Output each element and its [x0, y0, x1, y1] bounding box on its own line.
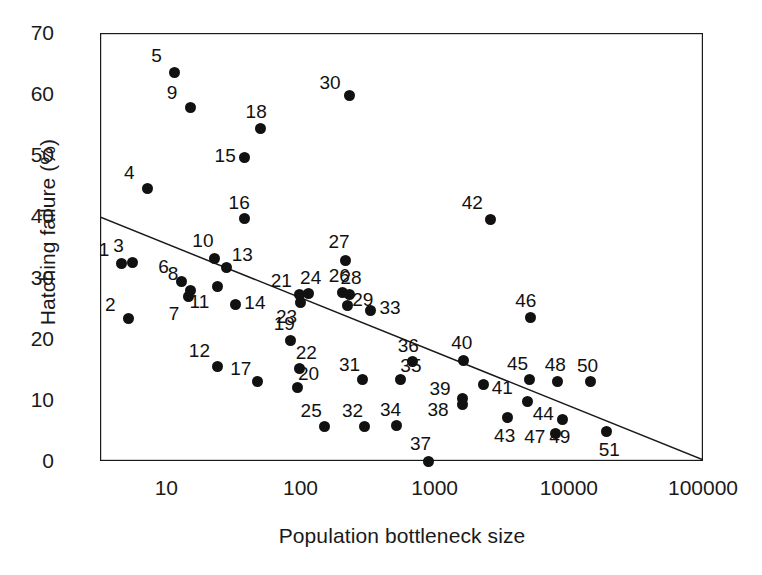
data-point-40[interactable] — [458, 355, 469, 366]
data-point-label-37: 37 — [410, 434, 431, 453]
data-point-label-9: 9 — [167, 82, 178, 101]
data-point-2[interactable] — [123, 313, 134, 324]
data-point-15[interactable] — [239, 152, 250, 163]
data-point-label-41: 41 — [492, 377, 513, 396]
hatching-failure-scatter-figure: Hatching failure (%) Population bottlene… — [0, 0, 762, 575]
data-point-44[interactable] — [522, 396, 533, 407]
data-point-3[interactable] — [127, 257, 138, 268]
data-point-label-38: 38 — [427, 399, 448, 418]
data-point-label-47: 47 — [524, 427, 545, 446]
data-point-31[interactable] — [357, 374, 368, 385]
data-point-label-49: 49 — [549, 427, 570, 446]
data-point-label-36: 36 — [398, 335, 419, 354]
data-point-37[interactable] — [423, 456, 434, 467]
x-tick-label-100: 100 — [283, 477, 318, 498]
data-point-41[interactable] — [478, 379, 489, 390]
data-point-label-40: 40 — [451, 333, 472, 352]
data-point-label-28: 28 — [340, 267, 361, 286]
y-tick-label-30: 30 — [8, 267, 54, 288]
x-tick-label-1000: 1000 — [411, 477, 458, 498]
data-point-label-21: 21 — [271, 270, 292, 289]
x-axis-title: Population bottleneck size — [100, 524, 704, 548]
data-point-33[interactable] — [365, 305, 376, 316]
data-point-label-7: 7 — [169, 303, 180, 322]
data-point-label-34: 34 — [380, 399, 401, 418]
data-point-1[interactable] — [116, 258, 127, 269]
y-tick-label-60: 60 — [8, 83, 54, 104]
y-tick-label-50: 50 — [8, 144, 54, 165]
data-point-label-27: 27 — [329, 232, 350, 251]
x-tick-label-100000: 100000 — [668, 477, 738, 498]
data-point-label-51: 51 — [599, 439, 620, 458]
plot-canvas — [100, 33, 703, 461]
data-point-22[interactable] — [294, 363, 305, 374]
data-point-label-10: 10 — [192, 231, 213, 250]
data-point-12[interactable] — [212, 361, 223, 372]
y-tick-label-0: 0 — [8, 450, 54, 471]
data-point-label-14: 14 — [244, 293, 265, 312]
data-point-45[interactable] — [524, 374, 535, 385]
x-tick-label-10: 10 — [155, 477, 178, 498]
data-point-9[interactable] — [185, 102, 196, 113]
data-point-label-44: 44 — [533, 404, 554, 423]
data-point-label-45: 45 — [507, 354, 528, 373]
data-point-label-25: 25 — [301, 400, 322, 419]
data-point-27[interactable] — [340, 255, 351, 266]
data-point-label-43: 43 — [494, 425, 515, 444]
data-point-label-24: 24 — [300, 268, 321, 287]
data-point-label-48: 48 — [545, 354, 566, 373]
data-point-label-39: 39 — [429, 379, 450, 398]
data-point-16[interactable] — [239, 213, 250, 224]
data-point-39[interactable] — [457, 393, 468, 404]
data-point-11[interactable] — [212, 281, 223, 292]
data-point-label-30: 30 — [319, 72, 340, 91]
data-point-label-3: 3 — [113, 236, 124, 255]
data-point-label-33: 33 — [380, 297, 401, 316]
axes-group — [100, 33, 703, 461]
data-point-label-2: 2 — [105, 294, 116, 313]
data-point-label-1: 1 — [99, 239, 110, 258]
plot-area — [100, 33, 703, 461]
data-point-5[interactable] — [169, 67, 180, 78]
data-point-label-18: 18 — [246, 101, 267, 120]
data-point-label-11: 11 — [190, 292, 210, 311]
data-point-label-22: 22 — [296, 343, 317, 362]
data-point-label-5: 5 — [151, 46, 162, 65]
data-point-label-8: 8 — [168, 264, 179, 283]
y-tick-label-10: 10 — [8, 389, 54, 410]
data-point-label-16: 16 — [229, 192, 250, 211]
data-point-30[interactable] — [344, 90, 355, 101]
data-point-label-32: 32 — [342, 400, 363, 419]
data-point-label-23: 23 — [276, 307, 297, 326]
x-tick-label-10000: 10000 — [540, 477, 598, 498]
data-point-label-12: 12 — [189, 341, 210, 360]
y-tick-label-20: 20 — [8, 328, 54, 349]
data-point-19[interactable] — [285, 335, 296, 346]
data-point-label-42: 42 — [462, 193, 483, 212]
data-point-51[interactable] — [601, 426, 612, 437]
data-point-42[interactable] — [485, 214, 496, 225]
data-point-label-50: 50 — [577, 355, 598, 374]
data-point-label-46: 46 — [515, 290, 536, 309]
data-point-label-4: 4 — [124, 162, 135, 181]
data-point-label-13: 13 — [232, 244, 253, 263]
data-point-label-15: 15 — [215, 145, 236, 164]
y-tick-label-40: 40 — [8, 205, 54, 226]
data-point-48[interactable] — [552, 376, 563, 387]
data-point-10[interactable] — [209, 253, 220, 264]
data-point-label-17: 17 — [230, 358, 251, 377]
plot-frame — [101, 34, 703, 461]
y-tick-label-70: 70 — [8, 22, 54, 43]
data-point-25[interactable] — [319, 421, 330, 432]
data-point-label-31: 31 — [339, 355, 360, 374]
data-point-50[interactable] — [585, 376, 596, 387]
